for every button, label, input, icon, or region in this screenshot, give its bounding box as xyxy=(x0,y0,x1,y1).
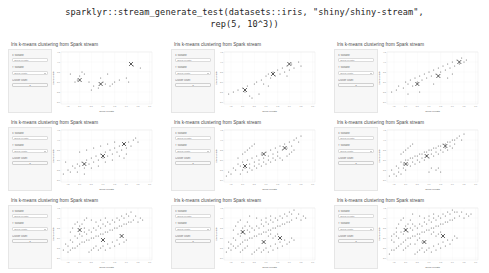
data-point xyxy=(417,251,418,252)
data-point xyxy=(249,147,250,148)
data-point xyxy=(251,253,252,254)
data-point xyxy=(396,89,397,90)
data-point xyxy=(270,77,271,78)
screenshot-grid: Iris k-means clustering from Spark strea… xyxy=(0,39,489,273)
x-variable-select[interactable]: Sepal.Length xyxy=(338,214,374,218)
x-variable-select[interactable]: Sepal.Length xyxy=(12,136,48,140)
data-point xyxy=(293,149,294,150)
data-point xyxy=(261,223,262,224)
data-point xyxy=(107,243,108,244)
data-point xyxy=(407,83,408,84)
cluster-count-input[interactable]: 3 xyxy=(338,239,374,243)
x-tick-label: 4.5 xyxy=(66,105,70,107)
data-point xyxy=(98,235,99,236)
data-point xyxy=(272,153,273,154)
x-variable-select[interactable]: Sepal.Length xyxy=(175,136,211,140)
data-point xyxy=(433,227,434,228)
data-point xyxy=(410,227,411,228)
sidebar-panel: X VariableSepal.LengthY VariableSepal.Wi… xyxy=(171,49,215,113)
x-variable-select[interactable]: Sepal.Length xyxy=(12,58,48,62)
data-point xyxy=(277,151,278,152)
x-variable-select[interactable]: Sepal.Length xyxy=(175,214,211,218)
cluster-count-input[interactable]: 3 xyxy=(12,83,48,87)
data-point xyxy=(233,91,234,92)
data-point xyxy=(72,165,73,166)
data-point xyxy=(421,153,422,154)
cluster-count-input[interactable]: 3 xyxy=(12,161,48,165)
data-point xyxy=(88,251,89,252)
y-variable-select[interactable]: Sepal.Width xyxy=(12,227,48,231)
data-point xyxy=(403,249,404,250)
y-variable-select[interactable]: Sepal.Width xyxy=(338,149,374,153)
data-point xyxy=(284,213,285,214)
app-screenshot-panel: Iris k-means clustering from Spark strea… xyxy=(0,195,163,273)
data-point xyxy=(98,249,99,250)
data-point xyxy=(228,93,229,94)
cluster-count-input[interactable]: 3 xyxy=(175,161,211,165)
y-variable-select[interactable]: Sepal.Width xyxy=(175,71,211,75)
y-variable-select[interactable]: Sepal.Width xyxy=(338,71,374,75)
data-point xyxy=(272,157,273,158)
data-point xyxy=(470,213,471,214)
y-variable-select[interactable]: Sepal.Width xyxy=(12,149,48,153)
x-tick-label: 4.5 xyxy=(392,105,396,107)
y-variable-select[interactable]: Sepal.Width xyxy=(338,227,374,231)
x-tick-label: 5.0 xyxy=(241,261,245,263)
data-point xyxy=(426,229,427,230)
cluster-count-input[interactable]: 3 xyxy=(175,83,211,87)
x-tick-label: 6.5 xyxy=(113,183,117,185)
y-variable-select[interactable]: Sepal.Width xyxy=(175,227,211,231)
control-label: X Variable xyxy=(12,132,48,135)
x-axis-label: Sepal.Length xyxy=(425,188,440,191)
x-variable-select[interactable]: Sepal.Length xyxy=(338,58,374,62)
y-tick-label: 4.5 xyxy=(383,129,387,131)
data-point xyxy=(424,217,425,218)
scatter-plot-svg: 4.55.05.56.06.57.07.58.02.02.53.03.54.04… xyxy=(378,49,481,113)
app-screenshot-panel: Iris k-means clustering from Spark strea… xyxy=(0,39,163,117)
x-tick-label: 7.5 xyxy=(136,261,140,263)
x-tick-label: 7.5 xyxy=(462,261,466,263)
x-axis-label: Sepal.Length xyxy=(425,110,440,113)
x-variable-select[interactable]: Sepal.Length xyxy=(12,214,48,218)
y-axis-label: Sepal.Width xyxy=(378,71,381,85)
cluster-count-input[interactable]: 3 xyxy=(338,161,374,165)
data-point xyxy=(258,159,259,160)
data-point xyxy=(88,229,89,230)
x-tick-label: 6.0 xyxy=(427,105,431,107)
data-point xyxy=(452,209,453,210)
x-tick-label: 4.5 xyxy=(229,183,233,185)
data-point xyxy=(272,237,273,238)
data-point xyxy=(398,237,399,238)
x-tick-label: 6.5 xyxy=(276,105,280,107)
y-variable-select[interactable]: Sepal.Width xyxy=(12,71,48,75)
data-point xyxy=(459,135,460,136)
cluster-count-input[interactable]: 3 xyxy=(175,239,211,243)
control-group: X VariableSepal.Length xyxy=(12,54,48,62)
data-point xyxy=(405,81,406,82)
data-point xyxy=(445,147,446,148)
data-point xyxy=(433,69,434,70)
data-point xyxy=(407,223,408,224)
x-variable-select[interactable]: Sepal.Length xyxy=(338,136,374,140)
x-tick-label: 5.0 xyxy=(404,105,408,107)
data-point xyxy=(396,165,397,166)
data-point xyxy=(282,223,283,224)
data-point xyxy=(447,77,448,78)
data-point xyxy=(263,83,264,84)
data-point xyxy=(88,163,89,164)
cluster-count-input[interactable]: 3 xyxy=(338,83,374,87)
data-point xyxy=(407,237,408,238)
app-heading: Iris k-means clustering from Spark strea… xyxy=(11,42,98,47)
x-tick-label: 6.5 xyxy=(113,105,117,107)
data-point xyxy=(233,245,234,246)
y-tick-label: 3.0 xyxy=(220,81,224,83)
data-point xyxy=(81,235,82,236)
data-point xyxy=(449,219,450,220)
data-point xyxy=(435,219,436,220)
cluster-count-input[interactable]: 3 xyxy=(12,239,48,243)
data-point xyxy=(440,149,441,150)
data-point xyxy=(93,237,94,238)
data-point xyxy=(261,165,262,166)
x-variable-select[interactable]: Sepal.Length xyxy=(175,58,211,62)
y-variable-select[interactable]: Sepal.Width xyxy=(175,149,211,153)
